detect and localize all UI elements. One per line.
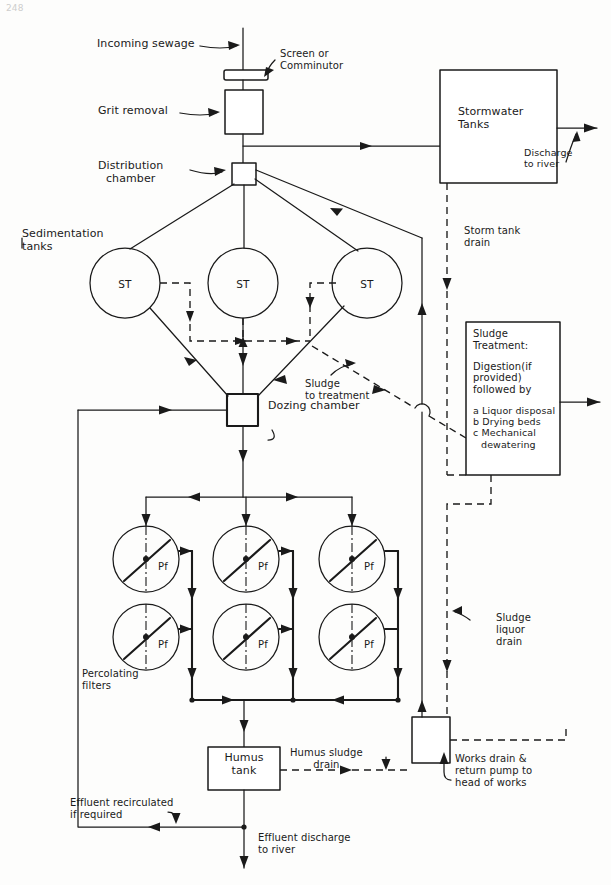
header-junction-c3: [395, 697, 400, 702]
filter-collecting-header-arrow-left: [222, 696, 234, 705]
st-right-sludge-dash: [310, 283, 336, 341]
sludge-treatment-text-block: Sludge Treatment: Digestion(if provided)…: [473, 328, 559, 450]
works-return-riser-arrow-high: [418, 303, 427, 315]
filter-feed-header-group: [142, 493, 357, 527]
works-drain-return-label: Works drain & return pump to head of wor…: [455, 753, 532, 788]
collector-c2-riser-arrow: [289, 588, 298, 600]
collector-c2-bottom-arrow: [281, 625, 293, 634]
distributor-pivot-r2c1: [143, 634, 149, 640]
st-left-outlet-line: [150, 308, 228, 396]
storm-overflow-arrow: [360, 142, 372, 150]
collector-c1-riser-arrow: [188, 588, 197, 600]
filter-feed-drop-right-arrow: [348, 514, 357, 526]
humus-tank-label: Humus tank: [212, 752, 276, 777]
page-number: 248: [6, 2, 23, 15]
st-sludge-header-arrow2: [286, 337, 298, 345]
sludge-treatment-item-c2: dewatering: [473, 439, 559, 450]
st-right-outlet-arrow: [273, 375, 287, 384]
storm-tank-drain-arrow: [443, 278, 452, 290]
filter-feed-header-arrow-left: [188, 493, 200, 502]
header-junction-c2: [290, 697, 295, 702]
dozing-chamber-box: [227, 394, 258, 426]
dozing-chamber-group: [78, 394, 274, 497]
collector-c1-top-arrow: [180, 547, 192, 556]
works-drain-group: [412, 238, 566, 780]
dist-to-st-right-line: [255, 179, 358, 251]
dist-to-st-left-line: [130, 184, 234, 249]
percolating-filter-r2c3-label: Pf: [364, 639, 374, 650]
incoming-sewage-leader-arrow: [228, 41, 240, 50]
collector-c3-riser-arrow: [394, 588, 403, 600]
sludge-liquor-label-leader: [455, 612, 470, 620]
discharge-to-river-label: Discharge to river: [524, 147, 572, 169]
dozing-chamber-label: Dozing chamber: [268, 400, 360, 413]
effluent-recirculation-arrow: [148, 823, 160, 832]
screen-comminutor-symbol: [224, 70, 268, 80]
filter-collecting-header-arrow-right: [332, 696, 344, 705]
sedimentation-tanks-label: Sedimentation tanks: [22, 228, 104, 253]
st-left-sludge-dash: [160, 283, 190, 318]
header-junction-c1: [189, 697, 194, 702]
works-return-riser-arrow-low: [418, 700, 427, 712]
sludge-treatment-body-3: followed by: [473, 384, 559, 396]
st-right-sludge-arrow: [306, 297, 315, 308]
humus-sludge-drain-label: Humus sludge drain: [290, 747, 363, 771]
storm-drain-into-works-line: [450, 724, 566, 740]
sedimentation-tank-left-label: ST: [118, 278, 132, 290]
sludge-treatment-heading-1: Sludge: [473, 328, 559, 340]
filter-feed-drop-middle-arrow: [242, 514, 251, 526]
filters-to-humus-arrow: [240, 720, 249, 732]
filter-feed-header-arrow-right: [286, 493, 298, 502]
grit-removal-box: [225, 90, 263, 134]
distribution-chamber-leader-arrow: [214, 167, 226, 176]
effluent-split-junction: [241, 824, 246, 829]
distributor-pivot-r2c2: [243, 634, 249, 640]
stormwater-tanks-label: Stormwater Tanks: [458, 106, 523, 131]
effluent-recirculated-label: Effluent recirculated if required: [70, 797, 174, 821]
screen-or-comminutor-label: Screen or Comminutor: [280, 48, 343, 72]
sludge-treatment-body-2: provided): [473, 372, 559, 384]
filter-feed-drop-left-arrow: [142, 514, 151, 526]
collector-c2-riser-arrow2: [289, 668, 298, 680]
recirculation-into-dozing-arrow: [159, 406, 172, 415]
works-return-into-distribution-line: [256, 170, 422, 238]
sedimentation-tank-right-label: ST: [360, 278, 374, 290]
sludge-liquor-label-leader-arrow: [452, 606, 462, 615]
collector-c3-riser-arrow2: [394, 668, 403, 680]
distributor-pivot-r1c2: [243, 556, 249, 562]
storm-tank-drain-label: Storm tank drain: [464, 225, 520, 249]
discharge-to-river-arrow: [584, 124, 597, 133]
diagram-page: ST ST ST Pf Pf Pf Pf Pf Pf 248 Incoming …: [0, 0, 611, 885]
sludge-liquor-drain-label: Sludge liquor drain: [496, 612, 531, 647]
sludge-treatment-body-1: Digestion(if: [473, 361, 559, 373]
sludge-treatment-item-a: a Liquor disposal: [473, 405, 559, 416]
sludge-treatment-item-b: b Drying beds: [473, 416, 559, 427]
percolating-filter-r1c3-label: Pf: [364, 561, 374, 572]
incoming-sewage-label: Incoming sewage: [97, 38, 195, 51]
screen-label-leader-arrow: [264, 67, 274, 77]
distributor-pivot-r1c3: [349, 556, 355, 562]
collector-c1-bottom-arrow: [180, 625, 192, 634]
grit-removal-leader-arrow: [208, 108, 220, 117]
distributor-pivot-r2c3: [349, 634, 355, 640]
grit-removal-label: Grit removal: [98, 105, 168, 118]
st-left-sludge-arrow: [186, 311, 194, 322]
humus-drain-label-leader-arrow: [382, 759, 391, 770]
distribution-chamber-box: [232, 163, 256, 185]
sludge-treatment-heading-2: Treatment:: [473, 340, 559, 352]
distributor-pivot-r1c1: [143, 556, 149, 562]
st-middle-outlet-arrow: [239, 353, 248, 366]
sedimentation-tank-middle-label: ST: [236, 278, 250, 290]
effluent-discharge-arrow: [240, 856, 249, 868]
percolating-filter-r1c1-label: Pf: [158, 561, 168, 572]
dozing-label-leader: [268, 430, 274, 440]
sludge-treatment-item-c1: c Mechanical: [473, 427, 559, 438]
sludge-liquor-drain-arrow: [443, 660, 452, 672]
percolating-filters-label: Percolating filters: [82, 668, 139, 692]
effluent-discharge-label: Effluent discharge to river: [258, 832, 351, 856]
dozing-outlet-arrow: [239, 450, 248, 462]
percolating-filter-r1c2-label: Pf: [258, 561, 268, 572]
percolating-filter-r2c2-label: Pf: [258, 639, 268, 650]
st-sludge-header-dash: [190, 324, 310, 341]
sludge-treatment-outlet-arrow: [587, 398, 600, 407]
